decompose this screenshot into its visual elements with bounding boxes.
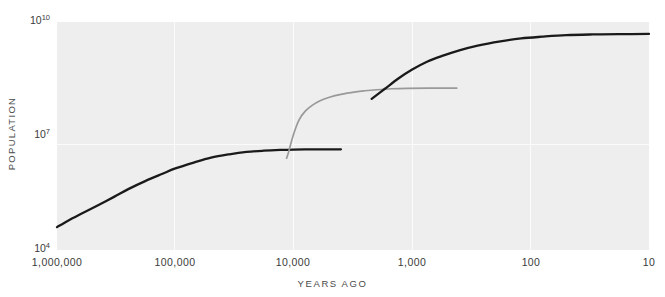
y-tick-1e7: 107: [34, 128, 50, 140]
y-tick-1e4: 104: [34, 242, 50, 254]
data-curves: [0, 0, 665, 297]
series-industrial-revolution-rise: [372, 34, 649, 99]
x-tick-10000: 10,000: [276, 256, 311, 268]
x-tick-1000: 1,000: [398, 256, 426, 268]
series-hunter-gatherer-plateau: [57, 149, 341, 227]
x-tick-1000000: 1,000,000: [32, 256, 82, 268]
x-tick-100000: 100,000: [155, 256, 196, 268]
y-tick-1e10: 1010: [30, 14, 50, 26]
x-axis-title: YEARS AGO: [0, 278, 665, 289]
population-chart-figure: 1010 107 104 1,000,000 100,000 10,000 1,…: [0, 0, 665, 297]
x-tick-100: 100: [522, 256, 541, 268]
x-tick-10: 10: [643, 256, 655, 268]
y-axis-title: POPULATION: [6, 79, 17, 189]
